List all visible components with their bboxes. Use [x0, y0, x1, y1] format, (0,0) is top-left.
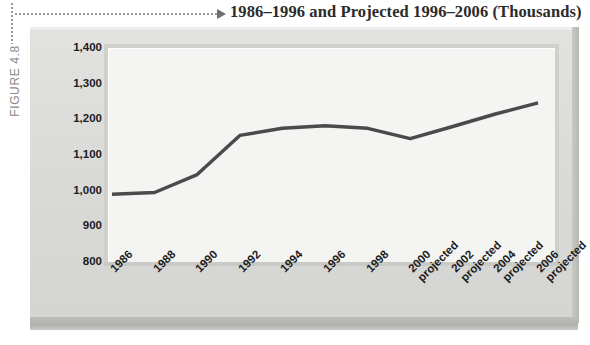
- y-axis-tick-label: 800: [54, 255, 102, 267]
- figure-label-text: FIGURE 4.8: [8, 38, 22, 124]
- y-axis-tick-label: 1,200: [54, 112, 102, 124]
- page-title: 1986–1996 and Projected 1996–2006 (Thous…: [230, 2, 582, 22]
- figure-label: FIGURE 4.8: [0, 0, 26, 170]
- title-row: 1986–1996 and Projected 1996–2006 (Thous…: [14, 2, 590, 24]
- y-axis-tick-label: 1,100: [54, 148, 102, 160]
- title-leader-dots: [14, 13, 219, 15]
- figure-panel-right-shadow: [572, 27, 579, 323]
- y-axis: 1,4001,3001,2001,1001,000900800: [46, 48, 102, 262]
- figure-panel-top-highlight: [30, 27, 578, 30]
- y-axis-tick-label: 1,400: [54, 41, 102, 53]
- plot-frame-right: [555, 48, 559, 266]
- x-axis: 19861988199019921994199619982000projecte…: [108, 266, 568, 342]
- y-axis-tick-label: 1,000: [54, 184, 102, 196]
- arrow-right-icon: [217, 9, 226, 19]
- y-axis-tick-label: 1,300: [54, 77, 102, 89]
- series-polyline: [112, 103, 538, 194]
- y-axis-tick-label: 900: [54, 219, 102, 231]
- chart-series-line: [108, 48, 555, 262]
